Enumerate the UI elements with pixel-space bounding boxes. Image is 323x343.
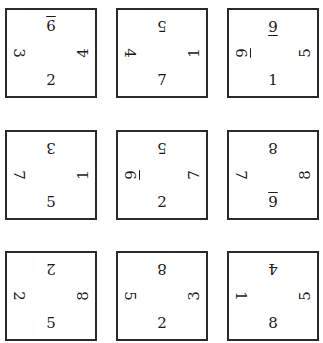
card-number-right: 4 [75,45,91,61]
puzzle-card-7: 2285 [5,251,97,341]
card-number-left: 3 [11,45,27,61]
card-number-top: 8 [154,261,170,277]
card-number-left: 2 [11,288,27,304]
card-number-bottom: 1 [265,72,281,88]
card-number-left: 4 [122,45,138,61]
card-number-bottom: 7 [154,72,170,88]
card-number-top: 5 [154,140,170,156]
card-number-bottom: 9 [265,194,281,210]
card-number-right: 1 [75,167,91,183]
card-number-right: 8 [75,288,91,304]
card-number-right: 3 [186,288,202,304]
card-number-bottom: 5 [43,194,59,210]
card-number-bottom: 2 [43,72,59,88]
card-number-left: 7 [11,167,27,183]
card-number-top: 2 [43,261,59,277]
puzzle-card-8: 8532 [116,251,208,341]
card-number-right: 8 [297,167,313,183]
card-number-right: 1 [186,45,202,61]
card-number-right: 7 [186,167,202,183]
card-number-left: 7 [233,167,249,183]
card-number-top: 3 [43,140,59,156]
card-number-left: 6 [233,45,249,61]
puzzle-card-6: 8789 [227,130,319,220]
puzzle-card-4: 3715 [5,130,97,220]
card-number-bottom: 2 [154,315,170,331]
card-number-top: 5 [154,18,170,34]
puzzle-card-3: 6651 [227,8,319,98]
puzzle-card-5: 5672 [116,130,208,220]
puzzle-card-1: 6342 [5,8,97,98]
card-number-bottom: 8 [265,315,281,331]
card-number-top: 6 [265,18,281,34]
card-number-left: 5 [122,288,138,304]
puzzle-card-2: 5417 [116,8,208,98]
card-number-right: 5 [297,288,313,304]
card-number-right: 5 [297,45,313,61]
card-number-left: 1 [233,288,249,304]
card-number-bottom: 5 [43,315,59,331]
card-number-top: 6 [43,18,59,34]
puzzle-card-9: 4158 [227,251,319,341]
card-number-top: 8 [265,140,281,156]
card-number-top: 4 [265,261,281,277]
card-number-left: 6 [122,167,138,183]
card-number-bottom: 2 [154,194,170,210]
